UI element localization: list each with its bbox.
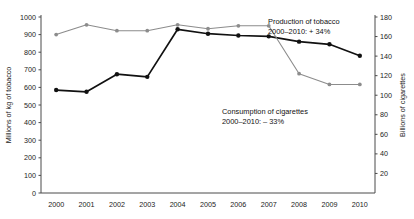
production-annotation-line2: 2000–2010: + 34% [268, 27, 331, 36]
data-point [236, 24, 240, 28]
data-point [115, 72, 119, 76]
data-point [175, 27, 179, 31]
data-point [206, 27, 210, 31]
consumption-annotation-line1: Consumption of cigarettes [222, 107, 308, 116]
right-axis-tick-label: 20 [380, 169, 388, 178]
right-axis-tick-label: 160 [380, 32, 392, 41]
right-axis-title: Billions of cigarettes [398, 73, 407, 137]
annotation-layer: Production of tobacco2000–2010: + 34%Con… [222, 17, 340, 126]
left-axis-tick-label: 600 [24, 83, 36, 92]
x-axis-tick-label: 2007 [261, 200, 277, 209]
consumption-annotation-line2: 2000–2010: – 33% [222, 117, 284, 126]
x-axis: 2000200120022003200420052006200720082009… [41, 193, 375, 209]
data-point [297, 39, 301, 43]
right-axis-tick-label: 40 [380, 149, 388, 158]
left-axis-tick-label: 1000 [20, 13, 36, 22]
left-axis-tick-label: 700 [24, 65, 36, 74]
data-point [54, 33, 58, 37]
data-point [84, 90, 88, 94]
left-axis-tick-label: 0 [32, 189, 36, 198]
right-axis-tick-label: 140 [380, 52, 392, 61]
data-point [328, 83, 332, 87]
right-axis: 20406080100120140160180Billions of cigar… [375, 13, 407, 193]
left-axis-tick-label: 800 [24, 48, 36, 57]
data-point [145, 75, 149, 79]
x-axis-tick-label: 2000 [48, 200, 64, 209]
data-point [358, 83, 362, 87]
left-axis-title: Millions of kg of tobacco [4, 67, 13, 144]
x-axis-tick-label: 2010 [352, 200, 368, 209]
data-point [85, 23, 89, 27]
left-axis-tick-label: 500 [24, 101, 36, 110]
left-axis-tick-label: 400 [24, 118, 36, 127]
left-axis-tick-label: 300 [24, 136, 36, 145]
data-point [115, 29, 119, 33]
data-point [54, 88, 58, 92]
right-axis-tick-label: 180 [380, 13, 392, 22]
data-point [206, 32, 210, 36]
chart-container: 01002003004005006007008009001000Millions… [0, 0, 414, 219]
left-axis-tick-label: 100 [24, 171, 36, 180]
left-axis: 01002003004005006007008009001000Millions… [4, 13, 41, 198]
left-axis-tick-label: 200 [24, 153, 36, 162]
x-axis-tick-label: 2002 [109, 200, 125, 209]
data-point [236, 33, 240, 37]
x-axis-tick-label: 2009 [321, 200, 337, 209]
data-point [327, 42, 331, 46]
right-axis-tick-label: 80 [380, 110, 388, 119]
chart-plot-area: 01002003004005006007008009001000Millions… [0, 0, 414, 219]
data-point [358, 54, 362, 58]
production-annotation-line1: Production of tobacco [268, 17, 340, 26]
right-axis-tick-label: 100 [380, 91, 392, 100]
left-axis-tick-label: 900 [24, 30, 36, 39]
x-axis-tick-label: 2003 [139, 200, 155, 209]
x-axis-tick-label: 2008 [291, 200, 307, 209]
series-line-production [56, 29, 360, 91]
right-axis-tick-label: 60 [380, 130, 388, 139]
data-point [145, 29, 149, 33]
right-axis-tick-label: 120 [380, 71, 392, 80]
x-axis-tick-label: 2004 [170, 200, 186, 209]
data-point [176, 23, 180, 27]
data-point [297, 72, 301, 76]
x-axis-tick-label: 2001 [79, 200, 95, 209]
x-axis-tick-label: 2005 [200, 200, 216, 209]
x-axis-tick-label: 2006 [230, 200, 246, 209]
